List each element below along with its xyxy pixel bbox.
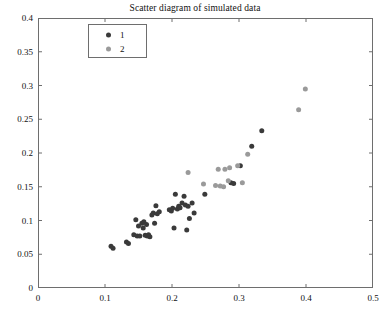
x-tick-label: 0.3 <box>233 293 244 303</box>
data-point <box>152 221 157 226</box>
data-point <box>190 200 195 205</box>
y-tick-label: 0.15 <box>0 182 33 192</box>
data-point <box>192 211 197 216</box>
data-point <box>240 180 245 185</box>
data-point <box>245 152 250 157</box>
y-tick-label: 0.1 <box>0 216 33 226</box>
y-tick-label: 0.3 <box>0 81 33 91</box>
x-tick-label: 0.5 <box>367 293 378 303</box>
axis-tick-marks <box>38 18 373 288</box>
y-tick-label: 0.35 <box>0 47 33 57</box>
data-point <box>249 144 254 149</box>
data-point <box>186 170 191 175</box>
y-tick-label: 0 <box>0 283 33 293</box>
y-tick-label: 0.05 <box>0 249 33 259</box>
data-point <box>184 227 189 232</box>
scatter-chart-figure: Scatter diagram of simulated data 00.050… <box>0 0 390 317</box>
scatter-plot-canvas <box>38 18 373 288</box>
data-point <box>226 178 231 183</box>
data-point <box>201 182 206 187</box>
legend-marker-series-2 <box>106 46 111 51</box>
y-tick-label: 0.2 <box>0 148 33 158</box>
data-point <box>182 194 187 199</box>
x-tick-label: 0.2 <box>166 293 177 303</box>
data-point <box>221 184 226 189</box>
legend-label-series-2: 2 <box>120 44 125 54</box>
data-point <box>222 167 227 172</box>
data-point <box>259 128 264 133</box>
data-point <box>216 167 221 172</box>
data-point <box>173 192 178 197</box>
data-points-layer <box>109 86 308 250</box>
data-point <box>111 246 116 251</box>
data-point <box>202 192 207 197</box>
data-point <box>147 234 152 239</box>
data-point <box>170 206 175 211</box>
data-point <box>178 205 183 210</box>
chart-legend[interactable]: 1 2 <box>88 24 147 58</box>
data-point <box>187 216 192 221</box>
data-point <box>153 203 158 208</box>
data-point <box>213 183 218 188</box>
data-point <box>227 165 232 170</box>
data-point <box>126 241 131 246</box>
data-point <box>157 209 162 214</box>
data-point <box>144 222 149 227</box>
x-tick-label: 0.4 <box>300 293 311 303</box>
data-point <box>235 163 240 168</box>
x-tick-label: 0 <box>36 293 41 303</box>
data-point <box>296 107 301 112</box>
y-tick-label: 0.4 <box>0 13 33 23</box>
legend-item-2[interactable]: 2 <box>89 41 146 56</box>
data-point <box>172 225 177 230</box>
data-point <box>137 234 142 239</box>
y-tick-label: 0.25 <box>0 114 33 124</box>
data-point <box>133 217 138 222</box>
data-point <box>186 204 191 209</box>
legend-item-1[interactable]: 1 <box>89 27 146 42</box>
legend-marker-series-1 <box>106 32 111 37</box>
x-tick-label: 0.1 <box>99 293 110 303</box>
chart-title: Scatter diagram of simulated data <box>0 3 390 13</box>
data-point <box>231 181 236 186</box>
legend-label-series-1: 1 <box>120 30 125 40</box>
data-point <box>303 86 308 91</box>
